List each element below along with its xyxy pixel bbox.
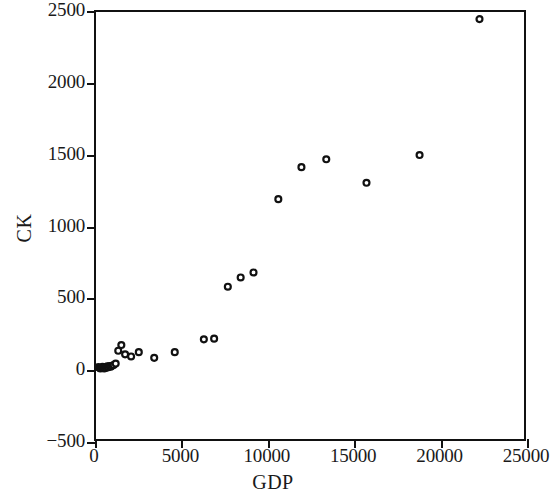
y-tick-label: 500 bbox=[0, 287, 85, 306]
data-point bbox=[251, 269, 257, 275]
plot-area bbox=[94, 10, 526, 441]
series-observations bbox=[96, 16, 482, 371]
y-tick-mark bbox=[87, 227, 96, 229]
y-tick-mark bbox=[87, 83, 96, 85]
data-point bbox=[298, 164, 304, 170]
y-tick-mark bbox=[87, 11, 96, 13]
y-tick-mark bbox=[87, 370, 96, 372]
data-point bbox=[201, 336, 207, 342]
data-point bbox=[113, 361, 119, 367]
data-point bbox=[417, 152, 423, 158]
data-point bbox=[364, 180, 370, 186]
y-tick-mark bbox=[87, 298, 96, 300]
y-tick-label: 2500 bbox=[0, 0, 85, 19]
data-point bbox=[151, 355, 157, 361]
y-tick-label: 1000 bbox=[0, 216, 85, 235]
data-point bbox=[323, 156, 329, 162]
data-point bbox=[172, 349, 178, 355]
data-point bbox=[225, 284, 231, 290]
y-tick-label: 1500 bbox=[0, 144, 85, 163]
data-point bbox=[238, 274, 244, 280]
y-tick-mark bbox=[87, 155, 96, 157]
data-points-layer bbox=[96, 12, 524, 439]
y-tick-label: 0 bbox=[0, 359, 85, 378]
data-point bbox=[275, 196, 281, 202]
x-tick-label: 25000 bbox=[466, 446, 554, 465]
data-point bbox=[128, 353, 134, 359]
data-point bbox=[211, 336, 217, 342]
data-point bbox=[118, 342, 124, 348]
data-point bbox=[136, 349, 142, 355]
y-tick-label: 2000 bbox=[0, 72, 85, 91]
data-point bbox=[477, 16, 483, 22]
x-axis-title: GDP bbox=[0, 472, 546, 492]
